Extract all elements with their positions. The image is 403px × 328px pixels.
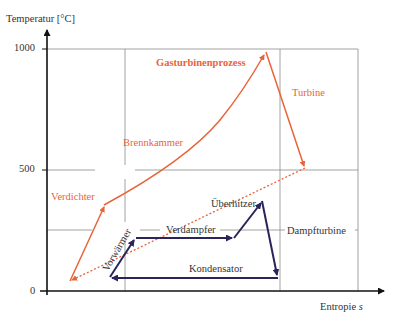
y-axis-label: Temperatur [°C] (6, 13, 75, 24)
label-verdampfer: Verdampfer (166, 224, 216, 235)
grid (47, 49, 358, 291)
y-tick-1000: 1000 (14, 42, 35, 53)
y-tick-0: 0 (30, 285, 35, 296)
turbine-line (266, 52, 304, 166)
verdichter-line (70, 207, 104, 281)
title-gasturbinenprozess: Gasturbinenprozess (156, 57, 246, 68)
label-verdichter: Verdichter (51, 191, 95, 202)
dampfturbine-line (262, 201, 277, 275)
x-axis-label: Entropie s (320, 301, 363, 312)
label-turbine: Turbine (292, 87, 325, 98)
label-brennkammer: Brennkammer (123, 137, 184, 148)
axes (40, 30, 384, 295)
label-dampfturbine: Dampfturbine (287, 225, 346, 236)
ts-diagram: Temperatur [°C] 1000 500 0 Entropie s Ga… (0, 0, 403, 328)
label-ueberhitzer: Überhitzer (211, 198, 256, 209)
y-tick-500: 500 (19, 163, 35, 174)
label-kondensator: Kondensator (189, 263, 243, 274)
brennkammer-curve (104, 55, 264, 205)
